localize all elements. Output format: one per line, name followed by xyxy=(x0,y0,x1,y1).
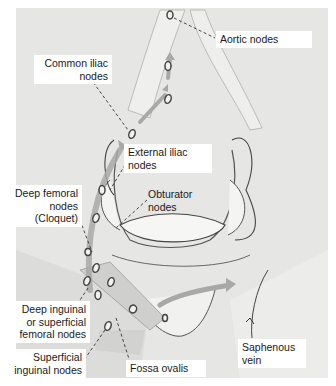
obturator-line2: nodes xyxy=(148,201,200,214)
deep-femoral-line1: Deep femoral xyxy=(10,187,78,200)
common-iliac-line1: Common iliac xyxy=(38,57,108,70)
common-iliac-line2: nodes xyxy=(38,70,108,83)
label-deep-femoral-nodes: Deep femoral nodes (Cloquet) xyxy=(6,185,82,227)
superficial-inguinal-line1: Superficial xyxy=(10,351,82,364)
deep-femoral-line2: nodes xyxy=(10,200,78,213)
label-fossa-ovalis: Fossa ovalis xyxy=(126,360,206,377)
label-aortic-nodes: Aortic nodes xyxy=(216,31,312,48)
fossa-ovalis-text: Fossa ovalis xyxy=(130,362,202,375)
external-iliac-line2: nodes xyxy=(128,159,208,172)
label-external-iliac-nodes: External iliac nodes xyxy=(124,144,212,173)
saphenous-line2: vein xyxy=(242,354,302,367)
saphenous-line1: Saphenous xyxy=(242,341,302,354)
superficial-inguinal-line2: inguinal nodes xyxy=(10,364,82,377)
external-iliac-line1: External iliac xyxy=(128,146,208,159)
deep-inguinal-line3: femoral nodes xyxy=(18,328,86,341)
label-common-iliac-nodes: Common iliac nodes xyxy=(34,55,112,84)
obturator-line1: Obturator xyxy=(148,188,200,201)
deep-inguinal-line1: Deep inguinal xyxy=(18,303,86,316)
label-saphenous-vein: Saphenous vein xyxy=(238,339,306,368)
label-obturator-nodes: Obturator nodes xyxy=(144,186,204,215)
deep-femoral-line3: (Cloquet) xyxy=(10,212,78,225)
aortic-nodes-text: Aortic nodes xyxy=(220,33,308,46)
label-deep-inguinal-nodes: Deep inguinal or superficial femoral nod… xyxy=(14,301,90,343)
label-superficial-inguinal-nodes: Superficial inguinal nodes xyxy=(6,349,86,378)
deep-inguinal-line2: or superficial xyxy=(18,316,86,329)
